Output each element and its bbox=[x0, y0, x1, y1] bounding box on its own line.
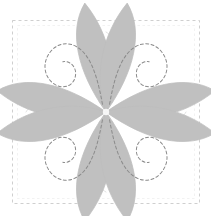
quilt-block-figure bbox=[0, 0, 211, 216]
quilt-block-canvas bbox=[0, 0, 211, 216]
center-point bbox=[103, 109, 109, 115]
